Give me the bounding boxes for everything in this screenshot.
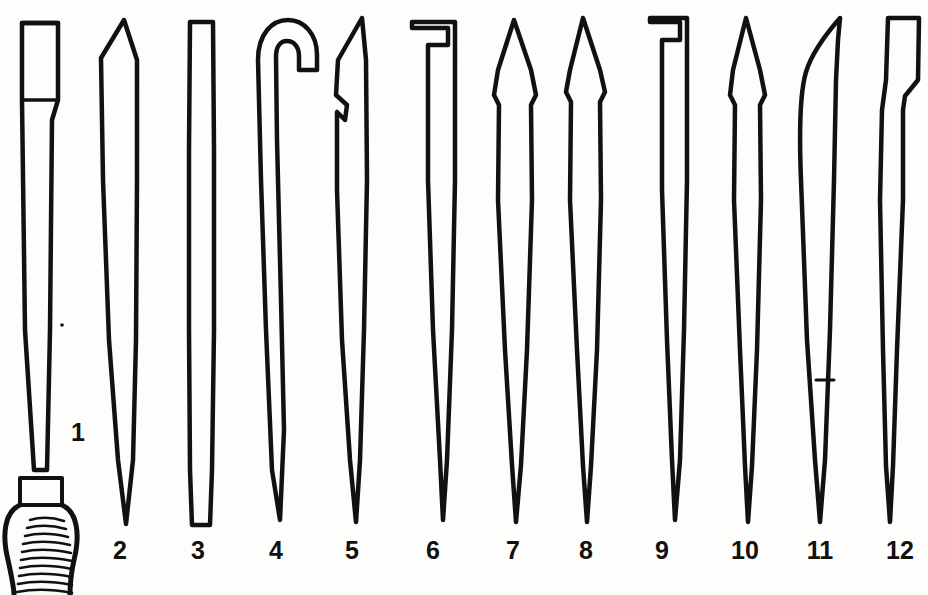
tool-8-outline	[566, 18, 605, 522]
tool-label-3: 3	[191, 536, 205, 565]
tool-5-outline	[336, 18, 367, 522]
tool-label-8: 8	[579, 536, 593, 565]
tool-12-outline	[880, 18, 919, 522]
tool-label-10: 10	[731, 536, 759, 565]
tool-label-5: 5	[345, 536, 359, 565]
tool-label-9: 9	[655, 536, 669, 565]
tool-label-12: 12	[886, 536, 914, 565]
tool-label-2: 2	[113, 536, 127, 565]
tool-6-outline	[412, 22, 455, 520]
tool-label-1: 1	[71, 418, 85, 447]
tool-label-7: 7	[506, 536, 520, 565]
tool-7-outline	[494, 20, 536, 522]
tool-plate-figure: 1 2 3 4 5 6 7 8 9 10 11 12	[0, 0, 928, 595]
tool-1-outline	[5, 23, 77, 595]
tool-9-outline	[650, 18, 687, 520]
tool-3-outline	[189, 22, 214, 525]
tool-label-11: 11	[807, 536, 833, 565]
tool-label-4: 4	[269, 536, 283, 565]
tool-10-outline	[730, 18, 765, 522]
tool-4-outline	[258, 20, 317, 520]
tool-outlines-svg	[0, 0, 928, 595]
tool-2-outline	[101, 20, 137, 524]
tool-11-outline	[800, 18, 840, 522]
tool-label-6: 6	[426, 536, 440, 565]
